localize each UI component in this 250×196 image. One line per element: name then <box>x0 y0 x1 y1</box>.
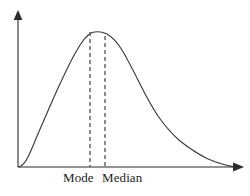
distribution-figure: Mode Median <box>0 0 250 196</box>
arrow-up-icon <box>14 10 23 20</box>
arrow-right-icon <box>233 162 244 171</box>
median-label: Median <box>102 171 142 184</box>
distribution-chart-canvas <box>0 0 250 196</box>
mode-label: Mode <box>63 171 94 184</box>
density-curve <box>19 32 233 167</box>
